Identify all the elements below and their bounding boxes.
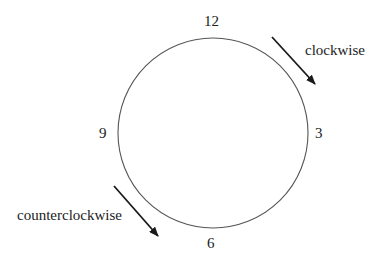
clock-diagram: 12 3 6 9 clockwise counterclockwise <box>0 0 379 267</box>
counterclockwise-label: counterclockwise <box>17 208 122 223</box>
number-6: 6 <box>207 236 215 251</box>
number-12: 12 <box>204 14 219 29</box>
number-3: 3 <box>315 126 323 141</box>
clockwise-label: clockwise <box>305 43 365 58</box>
clock-circle <box>118 38 308 228</box>
number-9: 9 <box>99 126 107 141</box>
